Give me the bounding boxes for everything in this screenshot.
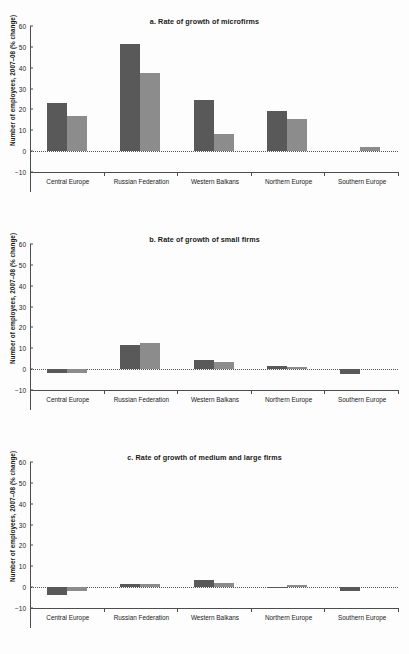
y-axis-tick-label: 20 [19, 324, 30, 331]
plot-area: 6050403020100−10 [30, 462, 398, 608]
bar [287, 585, 307, 587]
panel-title: a. Rate of growth of microfirms [0, 17, 409, 26]
y-axis-tick-label: 30 [19, 85, 30, 92]
y-axis-tick-label: 10 [19, 345, 30, 352]
bar-group [31, 26, 104, 172]
y-axis-tick-label: 30 [19, 303, 30, 310]
y-axis-tick-label: 50 [19, 261, 30, 268]
bar-group [104, 244, 177, 390]
y-axis-tick-mark [30, 26, 33, 27]
bar [67, 116, 87, 151]
panel-title: b. Rate of growth of small firms [0, 235, 409, 244]
y-axis-tick-mark [30, 545, 33, 546]
x-axis-tick-labels: Central EuropeRussian FederationWestern … [31, 614, 399, 621]
y-axis-tick-label: −10 [15, 387, 30, 394]
bar-group [251, 462, 324, 608]
x-axis-separator-tick [177, 390, 178, 394]
x-axis-separator-tick [251, 608, 252, 612]
bar-group [178, 244, 251, 390]
x-axis-separator-tick [398, 172, 399, 176]
x-axis-separator-tick [30, 172, 31, 176]
x-axis-category-label: Central Europe [31, 396, 105, 403]
bar [140, 343, 160, 369]
x-axis-separator-tick [398, 390, 399, 394]
x-axis-separator-tick [324, 390, 325, 394]
y-axis-tick-label: −10 [15, 169, 30, 176]
y-axis-tick-label: 10 [19, 563, 30, 570]
x-axis-line [30, 390, 398, 391]
bar-group [31, 244, 104, 390]
y-axis-tick-label: 50 [19, 43, 30, 50]
bar [287, 367, 307, 369]
y-axis-tick-label: 10 [19, 127, 30, 134]
bar [267, 111, 287, 151]
y-axis-tick-label: 40 [19, 500, 30, 507]
bar-group [325, 26, 398, 172]
x-axis-category-label: Central Europe [31, 614, 105, 621]
y-axis-tick-mark [30, 462, 33, 463]
bar [47, 369, 67, 373]
bar [67, 369, 87, 373]
y-axis-tick-label: 0 [22, 366, 30, 373]
y-axis-tick-mark [30, 306, 33, 307]
bar-group [31, 462, 104, 608]
bars-area [31, 462, 398, 608]
x-axis-category-label: Southern Europe [325, 178, 399, 185]
bar [194, 100, 214, 151]
y-axis-tick-label: 60 [19, 459, 30, 466]
x-axis-category-label: Western Balkans [178, 396, 252, 403]
y-axis-tick-mark [30, 369, 33, 370]
y-axis-tick-mark [30, 503, 33, 504]
x-axis-category-label: Northern Europe [252, 614, 326, 621]
x-axis-separator-tick [251, 172, 252, 176]
bar-group [325, 462, 398, 608]
x-axis-category-label: Southern Europe [325, 396, 399, 403]
y-axis-tick-mark [30, 327, 33, 328]
x-axis-separator-tick [30, 608, 31, 612]
bar [67, 587, 87, 591]
bar [120, 44, 140, 151]
bar-group [178, 462, 251, 608]
y-axis-tick-mark [30, 348, 33, 349]
bar [194, 360, 214, 369]
panel-c-medium-large-firms: c. Rate of growth of medium and large fi… [0, 436, 409, 654]
bar [340, 587, 360, 591]
x-axis-separator-tick [324, 608, 325, 612]
x-axis-separator-tick [104, 608, 105, 612]
bar [360, 147, 380, 151]
x-axis-category-label: Northern Europe [252, 396, 326, 403]
x-axis-category-label: Russian Federation [105, 396, 179, 403]
x-axis-category-label: Northern Europe [252, 178, 326, 185]
bar [267, 587, 287, 588]
bar [340, 369, 360, 374]
y-axis-tick-label: 50 [19, 479, 30, 486]
y-axis-tick-label: 60 [19, 23, 30, 30]
y-axis-tick-mark [30, 244, 33, 245]
bar-group [325, 244, 398, 390]
y-axis-tick-mark [30, 130, 33, 131]
bar-group [104, 462, 177, 608]
bar [47, 587, 67, 595]
y-axis-tick-mark [30, 482, 33, 483]
y-axis-tick-mark [30, 285, 33, 286]
bar [140, 73, 160, 151]
y-axis-tick-mark [30, 566, 33, 567]
x-axis-category-label: Southern Europe [325, 614, 399, 621]
x-axis-separator-tick [398, 608, 399, 612]
y-axis-tick-label: 20 [19, 542, 30, 549]
x-axis-line [30, 608, 398, 609]
x-axis-category-label: Western Balkans [178, 178, 252, 185]
panel-a-microfirms: a. Rate of growth of microfirms Number o… [0, 0, 409, 218]
y-axis-tick-mark [30, 524, 33, 525]
bar [47, 103, 67, 151]
x-axis-separator-tick [177, 608, 178, 612]
x-axis-category-label: Russian Federation [105, 178, 179, 185]
x-axis-line [30, 172, 398, 173]
bar [140, 584, 160, 588]
bar [267, 366, 287, 369]
y-axis-tick-mark [30, 151, 33, 152]
x-axis-separator-tick [251, 390, 252, 394]
bar [120, 584, 140, 587]
x-axis-separator-tick [30, 390, 31, 394]
plot-area: 6050403020100−10 [30, 26, 398, 172]
